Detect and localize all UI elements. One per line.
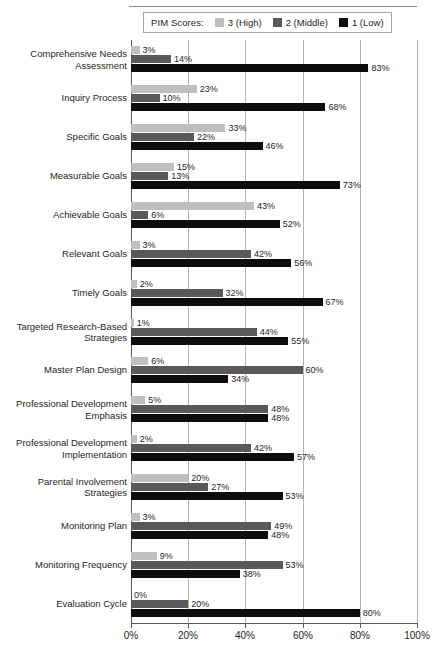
bar-value-label: 0% (131, 591, 147, 599)
x-tick-label-20%: 20% (178, 630, 198, 641)
legend-item-3-high: 3 (High) (215, 17, 262, 28)
bar (131, 414, 268, 422)
x-tick-label-100%: 100% (404, 630, 430, 641)
bar-value-label: 53% (283, 492, 304, 500)
category-label: Achievable Goals (3, 209, 127, 221)
gridline-80% (360, 40, 361, 623)
x-tick-label-0%: 0% (124, 630, 138, 641)
bar-value-label: 68% (325, 103, 346, 111)
chart-container: PIM Scores: 3 (High) 2 (Middle) 1 (Low) … (0, 0, 434, 664)
top-divider (129, 6, 417, 7)
bar (131, 570, 240, 578)
bar-value-label: 20% (188, 474, 209, 482)
legend-label-3-high: 3 (High) (228, 17, 262, 28)
category-label: Parental Involvement Strategies (3, 475, 127, 498)
bar (131, 531, 268, 539)
legend-swatch-3-high (215, 18, 224, 27)
bar (131, 124, 225, 132)
bar (131, 357, 148, 365)
x-tick-60% (303, 624, 304, 628)
bar-value-label: 2% (137, 280, 153, 288)
bar (131, 609, 360, 617)
x-tick-100% (417, 624, 418, 628)
gridline-60% (303, 40, 304, 623)
bar-value-label: 48% (268, 531, 289, 539)
bar (131, 94, 160, 102)
bar-value-label: 56% (291, 259, 312, 267)
bar (131, 552, 157, 560)
bar (131, 405, 268, 413)
bar-value-label: 5% (145, 396, 161, 404)
legend-item-1-low: 1 (Low) (339, 17, 384, 28)
bar (131, 103, 325, 111)
category-label: Monitoring Plan (3, 520, 127, 532)
bar (131, 55, 171, 63)
category-label: Comprehensive Needs Assessment (3, 48, 127, 71)
x-axis-line (131, 623, 418, 624)
bar (131, 64, 368, 72)
legend-swatch-1-low (339, 18, 348, 27)
bar (131, 513, 140, 521)
bar (131, 220, 280, 228)
bar (131, 600, 188, 608)
bar-value-label: 2% (137, 435, 153, 443)
bar (131, 250, 251, 258)
bar (131, 289, 223, 297)
bar-value-label: 3% (140, 241, 156, 249)
bar (131, 298, 323, 306)
bar-value-label: 23% (197, 85, 218, 93)
bar-value-label: 67% (323, 298, 344, 306)
bar (131, 337, 288, 345)
bar (131, 375, 228, 383)
bar (131, 163, 174, 171)
bar-value-label: 55% (288, 337, 309, 345)
bar-value-label: 33% (225, 124, 246, 132)
bar-value-label: 38% (240, 570, 261, 578)
category-label: Inquiry Process (3, 93, 127, 105)
bar-value-label: 3% (140, 513, 156, 521)
x-tick-20% (188, 624, 189, 628)
bar-value-label: 53% (283, 561, 304, 569)
bar-value-label: 22% (194, 133, 215, 141)
bar-value-label: 1% (134, 319, 150, 327)
bar (131, 474, 188, 482)
category-label: Specific Goals (3, 131, 127, 143)
x-tick-label-60%: 60% (293, 630, 313, 641)
bar-value-label: 15% (174, 163, 195, 171)
bar-value-label: 48% (268, 414, 289, 422)
x-tick-label-80%: 80% (350, 630, 370, 641)
bar (131, 85, 197, 93)
bar (131, 444, 251, 452)
bar (131, 46, 140, 54)
bar-value-label: 6% (148, 211, 164, 219)
category-label: Professional Development Emphasis (3, 398, 127, 421)
category-label: Measurable Goals (3, 170, 127, 182)
bar-value-label: 49% (271, 522, 292, 530)
bar (131, 211, 148, 219)
bar (131, 483, 208, 491)
category-label: Professional Development Implementation (3, 437, 127, 460)
bar-value-label: 80% (360, 609, 381, 617)
x-tick-80% (360, 624, 361, 628)
bar-value-label: 32% (223, 289, 244, 297)
bar-value-label: 34% (228, 375, 249, 383)
bar (131, 328, 257, 336)
category-label: Evaluation Cycle (3, 598, 127, 610)
bar-value-label: 83% (368, 64, 389, 72)
category-label: Master Plan Design (3, 365, 127, 377)
bar-value-label: 44% (257, 328, 278, 336)
category-label: Targeted Research-Based Strategies (3, 320, 127, 343)
bar-value-label: 20% (188, 600, 209, 608)
bar-value-label: 60% (303, 366, 324, 374)
bar (131, 202, 254, 210)
x-tick-40% (245, 624, 246, 628)
bar (131, 492, 283, 500)
x-tick-label-40%: 40% (235, 630, 255, 641)
chart-legend: PIM Scores: 3 (High) 2 (Middle) 1 (Low) (143, 12, 392, 33)
legend-swatch-2-middle (273, 18, 282, 27)
bar-value-label: 42% (251, 444, 272, 452)
legend-item-2-middle: 2 (Middle) (273, 17, 328, 28)
bar-value-label: 52% (280, 220, 301, 228)
bar-value-label: 14% (171, 55, 192, 63)
bar-value-label: 48% (268, 405, 289, 413)
